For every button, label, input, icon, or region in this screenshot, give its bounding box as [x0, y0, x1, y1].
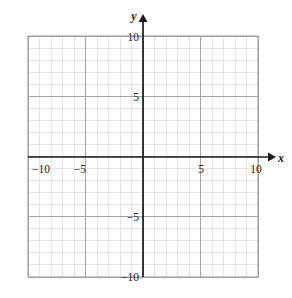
y-tick-label-10: 10 [128, 31, 140, 43]
x-tick-label-neg5: −5 [74, 163, 86, 175]
x-tick-label-neg10: −10 [32, 163, 50, 175]
y-tick-label-5: 5 [133, 91, 139, 103]
canvas-background [0, 0, 292, 298]
y-tick-label-neg10: −10 [121, 271, 139, 283]
coordinate-plane: x y −10 −5 5 10 10 5 −5 −10 [0, 0, 292, 298]
x-axis-label: x [277, 151, 284, 165]
x-tick-label-10: 10 [250, 163, 262, 175]
x-tick-label-5: 5 [198, 163, 204, 175]
y-tick-label-neg5: −5 [127, 211, 139, 223]
coordinate-grid-svg: x y −10 −5 5 10 10 5 −5 −10 [0, 0, 292, 298]
y-axis-label: y [129, 9, 137, 23]
